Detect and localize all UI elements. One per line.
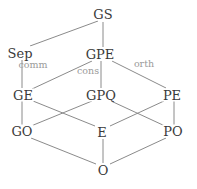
node-po[interactable]: PO [162, 125, 183, 138]
edge-sep-gs [30, 21, 98, 46]
edge-ge-e [33, 101, 95, 126]
edge-po-o [110, 138, 166, 164]
hasse-diagram: GSSepGPEGEGPQPEGOEPOO commconsorth [0, 0, 197, 189]
node-e[interactable]: E [96, 126, 108, 139]
node-o[interactable]: O [97, 164, 110, 177]
edge-label-comm: comm [18, 60, 47, 70]
node-gs[interactable]: GS [92, 8, 113, 21]
edge-gpq-go [31, 101, 92, 126]
node-go[interactable]: GO [10, 125, 33, 138]
edge-label-orth: orth [134, 59, 154, 69]
edge-go-o [31, 138, 96, 164]
node-gpq[interactable]: GPQ [85, 89, 117, 102]
node-gpe[interactable]: GPE [85, 48, 116, 61]
node-ge[interactable]: GE [12, 89, 34, 102]
node-pe[interactable]: PE [162, 89, 182, 102]
edge-label-cons: cons [77, 66, 99, 76]
node-sep[interactable]: Sep [7, 47, 34, 60]
